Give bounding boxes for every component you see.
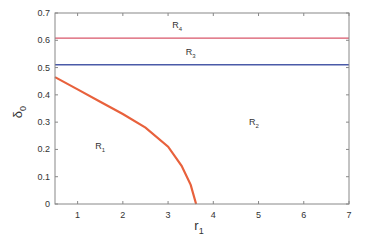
x-tick-label: 4 [211,210,216,220]
x-tick-label: 5 [256,210,261,220]
y-tick-label: 0.7 [37,8,50,18]
x-tick-label: 2 [120,210,125,220]
region-labels: R1R2R3R4 [95,20,259,153]
chart: 1234567 00.10.20.30.40.50.60.7 R1R2R3R4 … [0,0,367,244]
plot-series [55,38,349,204]
y-tick-label: 0 [45,199,50,209]
x-tick-label: 6 [301,210,306,220]
y-tick-label: 0.2 [37,144,50,154]
y-tick-label: 0.5 [37,63,50,73]
x-tick-label: 7 [346,210,351,220]
region-label: R4 [172,20,183,32]
plot-area-frame [55,13,349,204]
region-label: R3 [186,47,197,59]
x-axis-label: r1 [194,218,203,236]
x-axis-ticks: 1234567 [75,13,351,220]
region-label: R2 [249,117,260,129]
y-tick-label: 0.4 [37,90,50,100]
y-axis-label: δ0 [10,106,28,118]
y-tick-label: 0.6 [37,35,50,45]
y-tick-label: 0.1 [37,172,50,182]
y-tick-label: 0.3 [37,117,50,127]
x-tick-label: 1 [75,210,80,220]
series-line [55,77,196,204]
region-label: R1 [95,141,106,153]
x-tick-label: 3 [166,210,171,220]
